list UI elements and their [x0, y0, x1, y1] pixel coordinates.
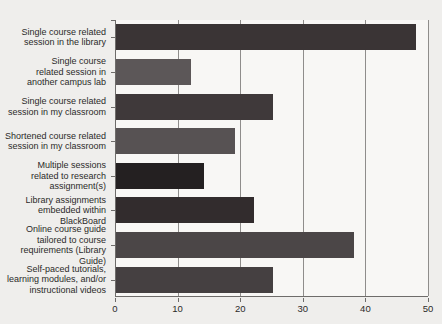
category-tick-7: [111, 280, 115, 281]
bar-7: [116, 267, 273, 293]
bar-2: [116, 94, 273, 120]
category-tick-5: [111, 210, 115, 211]
category-label-0: Single course related session in the lib…: [0, 20, 111, 55]
x-axis-tick-label-40: 40: [353, 303, 377, 314]
x-axis-tick-30: [303, 298, 304, 302]
category-label-5: Library assignments embedded within Blac…: [0, 193, 111, 228]
bar-4: [116, 163, 204, 189]
category-label-6: Online course guide tailored to course r…: [0, 228, 111, 263]
category-label-4: Multiple sessions related to research as…: [0, 159, 111, 194]
category-label-3: Shortened course related session in my c…: [0, 124, 111, 159]
x-axis-tick-0: [115, 298, 116, 302]
bar-6: [116, 232, 354, 258]
bar-3: [116, 128, 235, 154]
x-axis-tick-label-30: 30: [291, 303, 315, 314]
category-tick-6: [111, 245, 115, 246]
x-axis-tick-label-20: 20: [228, 303, 252, 314]
category-label-2: Single course related session in my clas…: [0, 89, 111, 124]
bar-5: [116, 197, 254, 223]
category-label-1: Single course related session in another…: [0, 55, 111, 90]
bar-0: [116, 24, 416, 50]
x-axis-tick-50: [428, 298, 429, 302]
y-axis-top-tick: [111, 20, 115, 21]
category-tick-1: [111, 72, 115, 73]
plot-area: [115, 20, 428, 297]
category-axis-labels: Single course related session in the lib…: [0, 20, 111, 297]
x-axis-tick-label-50: 50: [416, 303, 440, 314]
x-axis-tick-10: [178, 298, 179, 302]
x-axis-tick-label-10: 10: [166, 303, 190, 314]
x-axis-tick-label-0: 0: [103, 303, 127, 314]
category-tick-0: [111, 37, 115, 38]
x-axis-tick-20: [240, 298, 241, 302]
x-axis-tick-40: [365, 298, 366, 302]
gridline-x-40: [365, 20, 366, 296]
gridline-x-50: [428, 20, 429, 296]
category-tick-3: [111, 141, 115, 142]
category-tick-4: [111, 176, 115, 177]
category-tick-2: [111, 107, 115, 108]
bar-1: [116, 59, 191, 85]
bar-chart-figure: Single course related session in the lib…: [0, 0, 442, 324]
category-label-7: Self-paced tutorials, learning modules, …: [0, 262, 111, 297]
